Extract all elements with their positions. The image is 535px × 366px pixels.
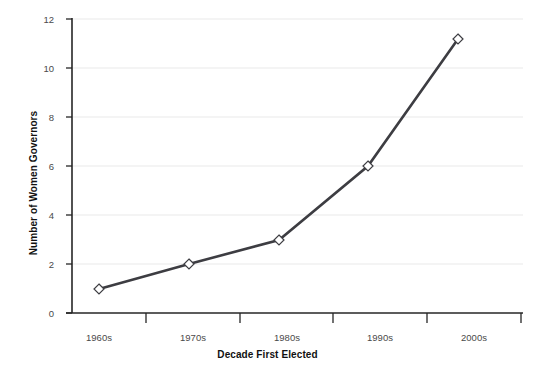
- y-tick-label-0: 0: [49, 308, 54, 319]
- x-tick-label-group: 1960s 1970s 1980s 1990s 2000s: [0, 332, 535, 346]
- y-tick-label-4: 4: [49, 210, 54, 221]
- x-tick-label-2000s: 2000s: [461, 332, 487, 343]
- gridlines: [72, 19, 523, 264]
- x-tick-label-1960s: 1960s: [86, 332, 112, 343]
- data-line-series-0: [99, 39, 458, 289]
- line-chart: 12 10 8 6 4 2 0 1960s 1970s 1980s 1990s …: [0, 0, 535, 366]
- y-tick-label-6: 6: [49, 161, 54, 172]
- data-markers: [94, 34, 463, 294]
- x-axis: [66, 313, 523, 323]
- x-axis-title: Decade First Elected: [0, 349, 535, 360]
- x-tick-label-1990s: 1990s: [367, 332, 393, 343]
- y-tick-label-group: 12 10 8 6 4 2 0: [28, 0, 54, 366]
- x-tick-label-1970s: 1970s: [180, 332, 206, 343]
- y-tick-label-10: 10: [43, 63, 54, 74]
- x-tick-label-1980s: 1980s: [274, 332, 300, 343]
- y-tick-label-2: 2: [49, 259, 54, 270]
- y-tick-label-8: 8: [49, 112, 54, 123]
- y-tick-label-12: 12: [43, 14, 54, 25]
- y-axis: [66, 18, 72, 313]
- data-point-1960s: [94, 284, 104, 294]
- plot-area: [0, 0, 535, 366]
- data-point-1970s: [184, 259, 194, 269]
